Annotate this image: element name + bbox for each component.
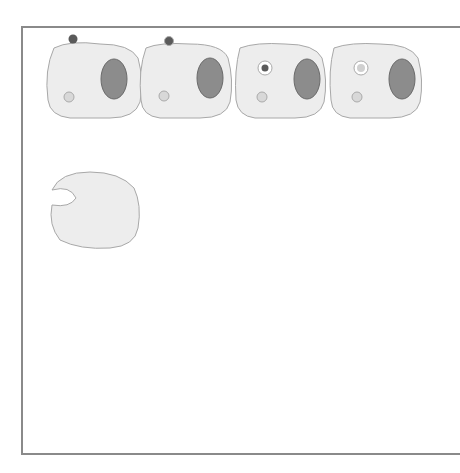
- cell-step-3: [236, 44, 326, 119]
- cell-step-2: [140, 37, 231, 119]
- cell-step-4: [330, 44, 422, 119]
- cell-step-1: [47, 35, 142, 119]
- lifecycle-diagram: [0, 0, 460, 473]
- cell-step-8-reverse-endocytosis: [51, 172, 139, 248]
- elementary-body: [69, 35, 78, 44]
